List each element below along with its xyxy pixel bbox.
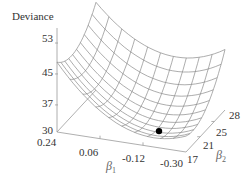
minimum-marker <box>156 128 162 134</box>
z-tick-37: 37 <box>42 98 53 109</box>
axes-box <box>55 28 225 152</box>
mesh-line <box>73 55 202 123</box>
surface-mesh <box>57 2 225 138</box>
z-tick-53: 53 <box>42 33 53 44</box>
mesh-line <box>84 35 213 97</box>
y-axis-title: β2 <box>216 150 226 165</box>
x-tick-0.24: 0.24 <box>37 137 56 148</box>
x-tick-0.06: 0.06 <box>79 147 98 158</box>
mesh-line <box>88 25 217 85</box>
mesh-line <box>83 29 122 94</box>
z-tick-30: 30 <box>42 125 53 136</box>
y-tick-17: 17 <box>187 154 198 165</box>
x-axis-line <box>57 132 186 152</box>
y-tick-25: 25 <box>216 127 227 138</box>
z-tick-45: 45 <box>42 67 53 78</box>
mesh-line <box>92 14 221 72</box>
y-tick-21: 21 <box>203 140 214 151</box>
x-tick--0.30: -0.30 <box>160 158 183 169</box>
back-floor-edge <box>57 90 96 132</box>
mesh-line <box>57 2 96 62</box>
x-axis-title: β1 <box>106 161 116 176</box>
y-tick-28: 28 <box>229 110 240 121</box>
x-tick--0.12: -0.12 <box>122 153 145 164</box>
z-axis-title: Deviance <box>12 11 54 22</box>
mesh-line <box>134 57 173 133</box>
mesh-line <box>57 62 186 139</box>
